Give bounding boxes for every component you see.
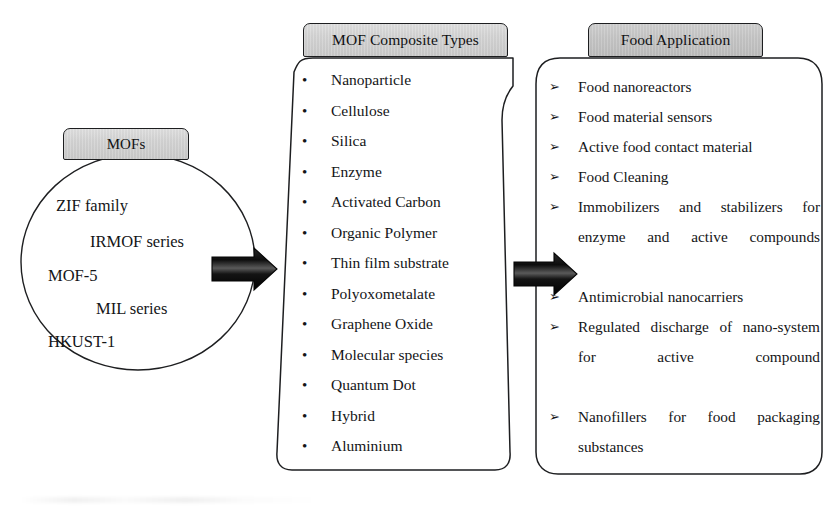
arrow-bullet-icon: ➢: [545, 312, 578, 342]
tab-mofs-label: MOFs: [107, 137, 146, 152]
arrow-bullet-icon: ➢: [545, 162, 578, 192]
arrow-bullet-icon: ➢: [545, 132, 578, 162]
list-item: ➢ Food material sensors: [545, 102, 820, 132]
list-item: • Graphene Oxide: [298, 316, 514, 347]
list-item-label: Activated Carbon: [331, 194, 441, 210]
bullet-icon: •: [298, 104, 331, 119]
list-item-label: Hybrid: [331, 408, 375, 424]
mofs-circle-item: ZIF family: [56, 198, 128, 215]
list-item: • Thin film substrate: [298, 255, 514, 286]
bullet-icon: •: [298, 195, 331, 210]
tab-mofs[interactable]: MOFs: [63, 128, 189, 160]
list-item-label: Silica: [331, 133, 366, 149]
list-item-label: Nanoparticle: [331, 72, 411, 88]
list-item: • Activated Carbon: [298, 194, 514, 225]
mof-composite-types-list: • Nanoparticle • Cellulose • Silica • En…: [298, 72, 514, 469]
list-item-label: Aluminium: [331, 438, 402, 454]
list-item-label: Quantum Dot: [331, 377, 416, 393]
bullet-icon: •: [298, 256, 331, 271]
list-item-label: Nanofillers for food packaging substance…: [578, 402, 820, 492]
list-item: • Organic Polymer: [298, 225, 514, 256]
list-item: ➢ Regulated discharge of nano-system for…: [545, 312, 820, 402]
bullet-icon: •: [298, 409, 331, 424]
bullet-icon: •: [298, 439, 331, 454]
mofs-circle-item: HKUST-1: [48, 334, 115, 351]
list-item: ➢ Food nanoreactors: [545, 72, 820, 102]
list-item-label: Antimicrobial nanocarriers: [578, 282, 820, 312]
list-item-label: Molecular species: [331, 347, 443, 363]
list-item: ➢ Antimicrobial nanocarriers: [545, 282, 820, 312]
list-item-label: Regulated discharge of nano-system for a…: [578, 312, 820, 402]
arrow-bullet-icon: ➢: [545, 402, 578, 432]
tab-food-application[interactable]: Food Application: [588, 23, 763, 57]
list-item: • Silica: [298, 133, 514, 164]
diagram-canvas: MOFs MOF Composite Types Food Applicatio…: [0, 0, 837, 510]
bullet-icon: •: [298, 348, 331, 363]
list-item-label: Food nanoreactors: [578, 72, 820, 102]
list-item-label: Active food contact material: [578, 132, 820, 162]
tab-food-application-label: Food Application: [621, 32, 731, 48]
arrow-bullet-icon: ➢: [545, 72, 578, 102]
bullet-icon: •: [298, 165, 331, 180]
list-item: ➢ Food Cleaning: [545, 162, 820, 192]
mofs-circle-item: MOF-5: [48, 268, 98, 285]
mofs-circle-item: MIL series: [96, 301, 167, 318]
mofs-circle-item: IRMOF series: [90, 234, 184, 251]
list-item: • Polyoxometalate: [298, 286, 514, 317]
mofs-circle-items: ZIF family IRMOF series MOF-5 MIL series…: [22, 156, 254, 368]
list-item-label: Food Cleaning: [578, 162, 820, 192]
bullet-icon: •: [298, 134, 331, 149]
tab-mof-composite-types[interactable]: MOF Composite Types: [303, 23, 508, 57]
list-item: ➢ Immobilizers and stabilizers for enzym…: [545, 192, 820, 282]
list-item-label: Graphene Oxide: [331, 316, 433, 332]
list-item-label: Enzyme: [331, 164, 382, 180]
bullet-icon: •: [298, 73, 331, 88]
list-item: • Aluminium: [298, 438, 514, 469]
bullet-icon: •: [298, 317, 331, 332]
arrow-bullet-icon: ➢: [545, 102, 578, 132]
arrow-bullet-icon: ➢: [545, 282, 578, 312]
list-item-label: Organic Polymer: [331, 225, 437, 241]
arrow-bullet-icon: ➢: [545, 192, 578, 222]
list-item: • Enzyme: [298, 164, 514, 195]
list-item-label: Cellulose: [331, 103, 390, 119]
list-item: • Cellulose: [298, 103, 514, 134]
list-item: • Nanoparticle: [298, 72, 514, 103]
scan-artifact-smudge: [20, 497, 320, 503]
list-item-label: Thin film substrate: [331, 255, 449, 271]
bullet-icon: •: [298, 287, 331, 302]
list-item: • Quantum Dot: [298, 377, 514, 408]
tab-mof-composite-types-label: MOF Composite Types: [332, 32, 479, 48]
list-item: ➢ Active food contact material: [545, 132, 820, 162]
list-item: • Molecular species: [298, 347, 514, 378]
bullet-icon: •: [298, 226, 331, 241]
list-item-label: Polyoxometalate: [331, 286, 435, 302]
list-item-label: Immobilizers and stabilizers for enzyme …: [578, 192, 820, 282]
list-item: ➢ Nanofillers for food packaging substan…: [545, 402, 820, 492]
list-item: • Hybrid: [298, 408, 514, 439]
food-application-list: ➢ Food nanoreactors ➢ Food material sens…: [545, 72, 820, 492]
list-item-label: Food material sensors: [578, 102, 820, 132]
bullet-icon: •: [298, 378, 331, 393]
